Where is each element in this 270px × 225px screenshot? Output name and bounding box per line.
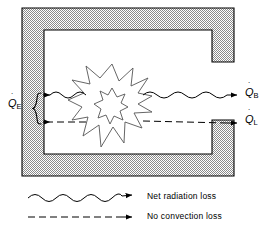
legend-label-radiation: Net radiation loss [147,192,216,201]
legend-label-convection: No convection loss [147,212,222,221]
explosion-burst [68,64,152,147]
radiation-arrow [43,92,237,98]
qe-dot-accent: ˙ [11,93,14,102]
label-ql: ˙QL [245,114,258,127]
diagram-canvas [0,0,270,225]
ql-dot-accent: ˙ [248,109,251,118]
label-qb-subscript: B [254,91,259,100]
label-ql-subscript: L [254,118,258,127]
label-ql-symbol: ˙Q [245,114,254,125]
qb-dot-accent: ˙ [248,82,251,91]
label-qe-subscript: E [17,102,22,111]
label-qb: ˙QB [245,87,259,100]
label-qe-symbol: ˙Q [8,98,17,109]
legend-radiation-sample [28,194,132,202]
convection-arrow [43,121,237,123]
label-qe: ˙QE [8,98,22,111]
figure-root: ˙QE ˙QB ˙QL Net radiation loss No convec… [0,0,270,225]
label-qb-symbol: ˙Q [245,87,254,98]
